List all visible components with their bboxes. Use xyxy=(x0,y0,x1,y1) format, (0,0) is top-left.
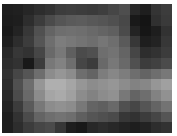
image-pixel-block xyxy=(140,4,151,15)
image-pixel-block xyxy=(23,112,34,123)
image-pixel-block xyxy=(87,112,98,123)
image-pixel-block xyxy=(45,122,56,133)
image-pixel-block xyxy=(161,15,172,26)
image-pixel-block xyxy=(130,15,141,26)
image-pixel-block xyxy=(119,90,130,101)
image-pixel-block xyxy=(2,112,13,123)
image-pixel-block xyxy=(108,122,119,133)
image-pixel-block xyxy=(161,47,172,58)
image-pixel-block xyxy=(55,112,66,123)
image-pixel-block xyxy=(161,79,172,90)
pixelated-image xyxy=(2,4,172,133)
image-pixel-block xyxy=(140,79,151,90)
image-pixel-block xyxy=(66,112,77,123)
image-pixel-block xyxy=(13,47,24,58)
image-pixel-block xyxy=(119,79,130,90)
image-pixel-block xyxy=(108,15,119,26)
image-pixel-block xyxy=(151,26,162,37)
image-pixel-block xyxy=(76,4,87,15)
image-pixel-block xyxy=(13,15,24,26)
image-pixel-block xyxy=(87,26,98,37)
image-pixel-block xyxy=(13,79,24,90)
image-pixel-block xyxy=(119,15,130,26)
image-pixel-block xyxy=(76,122,87,133)
image-pixel-block xyxy=(2,15,13,26)
image-pixel-block xyxy=(55,122,66,133)
image-pixel-block xyxy=(161,90,172,101)
image-pixel-block xyxy=(55,47,66,58)
image-pixel-block xyxy=(76,58,87,69)
image-pixel-block xyxy=(87,90,98,101)
image-pixel-block xyxy=(13,112,24,123)
image-pixel-block xyxy=(98,36,109,47)
image-pixel-block xyxy=(161,36,172,47)
image-pixel-block xyxy=(140,26,151,37)
image-pixel-block xyxy=(151,47,162,58)
image-pixel-block xyxy=(130,4,141,15)
image-pixel-block xyxy=(13,101,24,112)
image-pixel-block xyxy=(98,15,109,26)
image-pixel-block xyxy=(151,122,162,133)
image-pixel-block xyxy=(76,79,87,90)
image-pixel-block xyxy=(140,112,151,123)
image-pixel-block xyxy=(76,90,87,101)
image-pixel-block xyxy=(2,90,13,101)
image-pixel-block xyxy=(108,4,119,15)
image-pixel-block xyxy=(130,90,141,101)
image-pixel-block xyxy=(161,58,172,69)
image-pixel-block xyxy=(140,90,151,101)
image-pixel-block xyxy=(119,47,130,58)
image-pixel-block xyxy=(34,58,45,69)
image-pixel-block xyxy=(34,15,45,26)
image-pixel-block xyxy=(108,112,119,123)
image-pixel-block xyxy=(2,69,13,80)
image-pixel-block xyxy=(87,58,98,69)
image-pixel-block xyxy=(2,101,13,112)
image-pixel-block xyxy=(161,69,172,80)
image-pixel-block xyxy=(119,112,130,123)
image-pixel-block xyxy=(45,112,56,123)
image-pixel-block xyxy=(34,47,45,58)
image-pixel-block xyxy=(23,36,34,47)
image-pixel-block xyxy=(87,79,98,90)
image-pixel-block xyxy=(13,69,24,80)
image-pixel-block xyxy=(161,26,172,37)
image-pixel-block xyxy=(23,101,34,112)
image-pixel-block xyxy=(76,47,87,58)
image-pixel-block xyxy=(2,26,13,37)
image-pixel-block xyxy=(76,112,87,123)
image-pixel-block xyxy=(151,36,162,47)
image-pixel-block xyxy=(45,58,56,69)
image-pixel-block xyxy=(76,101,87,112)
image-pixel-block xyxy=(151,101,162,112)
image-pixel-block xyxy=(98,4,109,15)
image-pixel-block xyxy=(23,79,34,90)
image-pixel-block xyxy=(130,101,141,112)
image-pixel-block xyxy=(87,47,98,58)
image-pixel-block xyxy=(66,69,77,80)
image-pixel-block xyxy=(66,101,77,112)
image-pixel-block xyxy=(66,47,77,58)
image-pixel-block xyxy=(2,36,13,47)
image-pixel-block xyxy=(130,47,141,58)
image-pixel-block xyxy=(130,122,141,133)
image-pixel-block xyxy=(98,90,109,101)
image-pixel-block xyxy=(23,26,34,37)
image-pixel-block xyxy=(98,26,109,37)
image-pixel-block xyxy=(140,69,151,80)
image-pixel-block xyxy=(13,26,24,37)
image-pixel-block xyxy=(151,58,162,69)
image-pixel-block xyxy=(34,101,45,112)
image-pixel-block xyxy=(13,4,24,15)
image-pixel-block xyxy=(66,36,77,47)
image-pixel-block xyxy=(130,112,141,123)
image-pixel-block xyxy=(140,47,151,58)
image-pixel-block xyxy=(108,36,119,47)
image-pixel-block xyxy=(45,26,56,37)
image-pixel-block xyxy=(161,4,172,15)
image-pixel-block xyxy=(119,58,130,69)
image-pixel-block xyxy=(151,69,162,80)
image-pixel-block xyxy=(34,26,45,37)
image-pixel-block xyxy=(2,58,13,69)
image-pixel-block xyxy=(45,47,56,58)
